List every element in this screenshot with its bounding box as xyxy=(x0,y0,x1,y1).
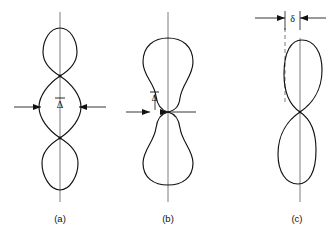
panel-b-caption: (b) xyxy=(162,213,174,224)
panel-b-dimension-symbol: Δ xyxy=(152,93,158,103)
panel-c-upper-lobe xyxy=(284,40,322,112)
panel-c: δ (c) xyxy=(255,11,326,224)
panel-c-dimension: δ xyxy=(255,11,326,30)
figure-container: Δ (a) Δ (b) xyxy=(0,0,331,238)
panel-c-arrow-left xyxy=(277,15,285,21)
panel-a-arrow-left xyxy=(33,104,41,110)
panel-a-node-upper xyxy=(59,75,62,78)
panel-b-dimension: Δ xyxy=(126,92,196,115)
panel-a: Δ (a) xyxy=(14,12,106,224)
panel-a-caption: (a) xyxy=(54,213,66,224)
panel-a-arrow-right xyxy=(79,104,87,110)
panel-a-dimension-symbol: Δ xyxy=(57,99,64,110)
panel-c-dimension-symbol: δ xyxy=(290,13,295,24)
technical-diagram: Δ (a) Δ (b) xyxy=(0,0,331,238)
panel-a-node-lower xyxy=(59,137,62,140)
panel-c-caption: (c) xyxy=(291,213,302,224)
panel-b-arrow-left xyxy=(142,109,150,115)
panel-c-crossing-point xyxy=(299,111,302,114)
panel-b: Δ (b) xyxy=(126,12,196,224)
panel-c-arrow-right xyxy=(300,15,308,21)
panel-a-dimension: Δ xyxy=(14,98,106,110)
panel-c-lower-lobe xyxy=(278,112,316,184)
